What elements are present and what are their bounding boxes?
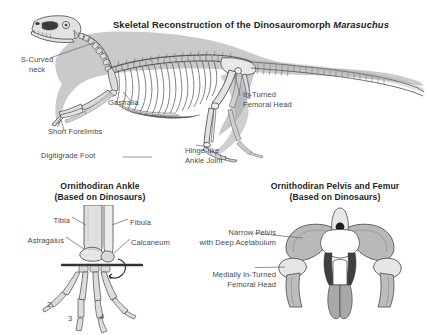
label-in-turned-femoral-head: In-Turned Femoral Head: [243, 90, 329, 109]
label-narrow-pelvis: Narrow Pelvis with Deep Acetabulum: [186, 228, 276, 247]
right-femur-shaft: [378, 273, 394, 307]
astragalus-bone: [80, 247, 103, 261]
left-femur-shaft: [286, 273, 302, 307]
ankle-panel-title: Ornithodiran Ankle (Based on Dinosaurs): [30, 181, 170, 202]
label-s-curved-neck: S-Curved neck: [6, 55, 68, 74]
label-digit-4: 4: [100, 312, 104, 321]
label-calcaneum: Calcaneum: [131, 238, 193, 248]
label-digitigrade-foot: Digitigrade Foot: [41, 151, 125, 161]
label-short-forelimbs: Short Forelimbs: [48, 127, 134, 137]
label-astragalus: Astragalus: [4, 236, 64, 246]
label-medially-in-turned-femoral-head: Medially In-Turned Femoral Head: [186, 270, 276, 289]
pelvis-panel-title: Ornithodiran Pelvis and Femur (Based on …: [248, 181, 422, 202]
label-fibula: Fibula: [130, 218, 174, 228]
rotation-arrow: [109, 259, 125, 279]
label-gastralia: Gastralia: [108, 98, 168, 108]
label-hinge-like-ankle-joint: Hinge-like Ankle Joint: [185, 146, 255, 165]
fibula-bone: [104, 205, 113, 255]
skull: [31, 16, 81, 43]
label-digit-2: 2: [47, 300, 51, 309]
calcaneum-bone: [101, 251, 114, 262]
label-tibia: Tibia: [30, 216, 70, 226]
figure-skeletal-reconstruction: Skeletal Reconstruction of the Dinosauro…: [0, 0, 428, 335]
label-digit-3: 3: [68, 314, 72, 323]
pelvis-illustration: [255, 205, 428, 335]
left-distal-element: [328, 285, 340, 319]
phalanges: [43, 292, 136, 333]
right-distal-element: [340, 285, 352, 319]
distal-tarsals: [79, 266, 110, 272]
